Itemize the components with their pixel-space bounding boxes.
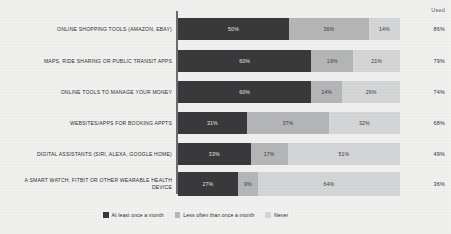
chart-row: WEBSITES/APPS FOR BOOKING APPTS31%37%32%… bbox=[0, 112, 451, 134]
used-value: 49% bbox=[434, 151, 445, 157]
stacked-bar-chart: Used ONLINE SHOPPING TOOLS (AMAZON, EBAY… bbox=[0, 0, 451, 234]
legend-swatch-icon bbox=[265, 212, 271, 218]
bar-segment: 50% bbox=[178, 18, 289, 40]
stacked-bar: 60%14%26% bbox=[178, 81, 400, 103]
stacked-bar: 33%17%51% bbox=[178, 143, 400, 165]
chart-row: ONLINE SHOPPING TOOLS (AMAZON, EBAY)50%3… bbox=[0, 18, 451, 40]
bar-segment: 60% bbox=[178, 81, 311, 103]
legend-label: Less often than once a month bbox=[183, 212, 254, 218]
stacked-bar: 60%19%21% bbox=[178, 50, 400, 72]
used-value: 79% bbox=[434, 58, 445, 64]
bar-segment: 33% bbox=[178, 143, 251, 165]
category-label: ONLINE SHOPPING TOOLS (AMAZON, EBAY) bbox=[8, 26, 172, 33]
bar-segment: 37% bbox=[247, 112, 329, 134]
bar-segment: 9% bbox=[238, 172, 258, 196]
legend-swatch-icon bbox=[103, 212, 109, 218]
bar-segment: 21% bbox=[353, 50, 400, 72]
chart-legend: At least once a monthLess often than onc… bbox=[103, 212, 288, 218]
legend-swatch-icon bbox=[175, 212, 181, 218]
bar-segment: 31% bbox=[178, 112, 247, 134]
stacked-bar: 50%36%14% bbox=[178, 18, 400, 40]
stacked-bar: 31%37%32% bbox=[178, 112, 400, 134]
bar-segment: 36% bbox=[289, 18, 369, 40]
used-value: 74% bbox=[434, 89, 445, 95]
chart-row: MAPS, RIDE SHARING OR PUBLIC TRANSIT APP… bbox=[0, 50, 451, 72]
category-label: A SMART WATCH, FITBIT OR OTHER WEARABLE … bbox=[8, 177, 172, 191]
bar-segment: 60% bbox=[178, 50, 311, 72]
category-label: DIGITAL ASSISTANTS (SIRI, ALEXA, GOOGLE … bbox=[8, 151, 172, 158]
category-label: WEBSITES/APPS FOR BOOKING APPTS bbox=[8, 120, 172, 127]
used-column-header: Used bbox=[431, 7, 445, 13]
category-label: ONLINE TOOLS TO MANAGE YOUR MONEY bbox=[8, 89, 172, 96]
bar-segment: 64% bbox=[258, 172, 400, 196]
bar-segment: 32% bbox=[329, 112, 400, 134]
bar-segment: 27% bbox=[178, 172, 238, 196]
used-value: 68% bbox=[434, 120, 445, 126]
bar-segment: 19% bbox=[311, 50, 353, 72]
bar-segment: 14% bbox=[311, 81, 342, 103]
used-value: 36% bbox=[434, 181, 445, 187]
legend-item[interactable]: At least once a month bbox=[103, 212, 164, 218]
chart-row: ONLINE TOOLS TO MANAGE YOUR MONEY60%14%2… bbox=[0, 81, 451, 103]
used-value: 86% bbox=[434, 26, 445, 32]
legend-label: At least once a month bbox=[112, 212, 164, 218]
stacked-bar: 27%9%64% bbox=[178, 172, 400, 196]
bar-segment: 26% bbox=[342, 81, 400, 103]
legend-item[interactable]: Never bbox=[265, 212, 288, 218]
bar-segment: 14% bbox=[369, 18, 400, 40]
legend-label: Never bbox=[274, 212, 288, 218]
chart-row: A SMART WATCH, FITBIT OR OTHER WEARABLE … bbox=[0, 172, 451, 196]
chart-row: DIGITAL ASSISTANTS (SIRI, ALEXA, GOOGLE … bbox=[0, 143, 451, 165]
legend-item[interactable]: Less often than once a month bbox=[175, 212, 255, 218]
bar-segment: 51% bbox=[288, 143, 400, 165]
bar-segment: 17% bbox=[251, 143, 288, 165]
category-label: MAPS, RIDE SHARING OR PUBLIC TRANSIT APP… bbox=[8, 58, 172, 65]
